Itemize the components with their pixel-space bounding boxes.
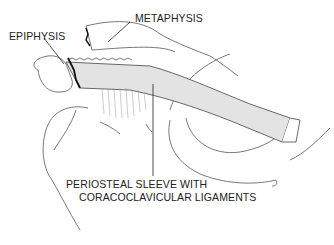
fracture-edge: [86, 28, 90, 46]
periosteal-edge: [68, 58, 132, 60]
anatomy-diagram: METAPHYSIS EPIPHYSIS PERIOSTEAL SLEEVE W…: [0, 0, 334, 245]
label-periosteal-line1: PERIOSTEAL SLEEVE WITH: [66, 178, 207, 190]
coracoclavicular-ligaments: [102, 88, 146, 118]
clavicle-shaft: [66, 62, 290, 142]
label-metaphysis: METAPHYSIS: [135, 12, 203, 24]
leader-lines: [44, 22, 153, 176]
label-periosteal-line2: CORACOCLAVICULAR LIGAMENTS: [79, 191, 256, 203]
label-epiphysis: EPIPHYSIS: [9, 30, 65, 42]
